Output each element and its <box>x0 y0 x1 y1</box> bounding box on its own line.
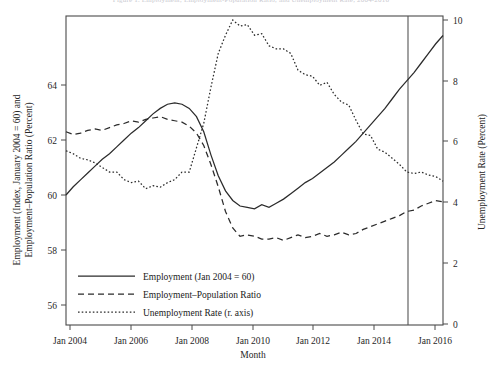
x-axis-title: Month <box>240 350 266 360</box>
y-right-tick-label: 2 <box>453 259 458 269</box>
y-right-tick-label: 4 <box>453 198 458 208</box>
series-employment-population-ratio <box>66 117 443 241</box>
y-left-ticks <box>61 85 66 305</box>
x-tick-label: Jan 2010 <box>236 336 270 346</box>
x-tick-label: Jan 2004 <box>53 336 87 346</box>
series-unemployment-rate <box>66 20 443 189</box>
y-right-tick-label: 10 <box>453 16 463 26</box>
legend-label-unemployment-rate: Unemployment Rate (r. axis) <box>143 308 253 319</box>
y-right-axis-title: Unemployment Rate (Percent) <box>477 114 488 230</box>
y-left-tick-label: 56 <box>48 301 58 311</box>
x-ticks <box>70 325 435 330</box>
y-left-tick-label: 58 <box>48 246 58 256</box>
y-right-tick-label: 6 <box>453 137 458 147</box>
y-left-tick-label: 60 <box>48 191 58 201</box>
y-left-axis-title-line1: Employment (Index, January 2004 = 60) an… <box>12 94 23 265</box>
chart-figure: Figure 1. Employment, Employment-Populat… <box>0 0 502 373</box>
x-tick-label: Jan 2006 <box>114 336 148 346</box>
x-tick-label: Jan 2014 <box>357 336 391 346</box>
y-right-tick-label: 8 <box>453 77 458 87</box>
legend: Employment (Jan 2004 = 60) Employment–Po… <box>78 272 261 319</box>
y-left-tick-label: 64 <box>48 81 58 91</box>
y-left-tick-label: 62 <box>48 136 58 146</box>
y-right-ticks <box>443 20 448 324</box>
x-tick-label: Jan 2016 <box>418 336 452 346</box>
x-tick-label: Jan 2012 <box>296 336 330 346</box>
legend-label-employment-population-ratio: Employment–Population Ratio <box>143 290 261 300</box>
legend-label-employment: Employment (Jan 2004 = 60) <box>143 272 254 283</box>
y-right-tick-label: 0 <box>453 320 458 330</box>
plot-frame <box>66 16 443 325</box>
chart-svg: 64 62 60 58 56 10 8 6 4 2 0 Jan 2004 Jan… <box>0 0 502 373</box>
y-left-axis-title-line2: Employment–Population Ratio (Percent) <box>24 102 35 257</box>
series-employment <box>66 36 443 209</box>
x-tick-label: Jan 2008 <box>175 336 209 346</box>
